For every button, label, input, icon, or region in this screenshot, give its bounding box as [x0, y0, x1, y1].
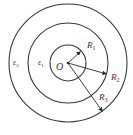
epsilon2-label: ε2 — [13, 58, 19, 68]
radius-r3-arrow — [68, 63, 103, 112]
concentric-circles-diagram: O R1 R2 R3 ε1 ε2 — [0, 0, 133, 135]
center-label: O — [56, 61, 63, 72]
radius-r1-arrow — [68, 52, 81, 64]
r2-label: R2 — [110, 72, 120, 83]
epsilon1-label: ε1 — [38, 58, 44, 68]
r3-label: R3 — [98, 92, 108, 103]
radius-r2-arrow — [68, 63, 107, 74]
r1-label: R1 — [86, 40, 96, 51]
